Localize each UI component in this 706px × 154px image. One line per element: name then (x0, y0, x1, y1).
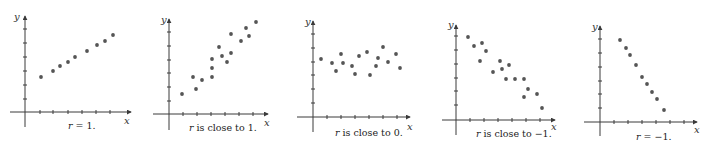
data-point (472, 44, 476, 48)
data-point (247, 34, 251, 38)
data-point (526, 87, 530, 91)
panel-caption: r is close to −1. (476, 128, 552, 139)
data-point (507, 63, 511, 67)
data-point (210, 75, 214, 79)
data-point (51, 69, 55, 73)
data-point (491, 70, 495, 74)
data-point (655, 97, 659, 101)
data-point (618, 38, 622, 42)
data-point (650, 90, 654, 94)
data-point (398, 66, 402, 70)
data-point (368, 73, 372, 77)
data-point (103, 39, 107, 43)
panel-caption: r = −1. (636, 131, 672, 142)
data-point (484, 49, 488, 53)
x-axis-label: x (124, 115, 130, 126)
data-point (357, 54, 361, 58)
data-point (244, 26, 248, 30)
data-point (191, 75, 195, 79)
data-point (381, 45, 385, 49)
data-point (85, 49, 89, 53)
data-point (334, 69, 338, 73)
x-axis-label: x (694, 124, 700, 135)
correlation-scatter-figure: xyr = 1.xyr is close to 1.xyr is close t… (0, 0, 706, 154)
data-point (365, 50, 369, 54)
data-point (498, 59, 502, 63)
data-point (339, 52, 343, 56)
data-point (628, 53, 632, 57)
data-point (180, 92, 184, 96)
data-point (319, 57, 323, 61)
data-point (394, 52, 398, 56)
data-point (466, 35, 470, 39)
panel-caption: r = 1. (68, 120, 96, 131)
data-point (220, 54, 224, 58)
data-point (210, 57, 214, 61)
data-point (95, 43, 99, 47)
data-point (229, 32, 233, 36)
data-point (210, 66, 214, 70)
data-point (624, 46, 628, 50)
data-point (500, 67, 504, 71)
data-point (634, 63, 638, 67)
y-axis-label: y (591, 21, 598, 32)
data-point (478, 59, 482, 63)
panel-caption: r is close to 1. (189, 122, 257, 133)
scatter-panel-4: xyr is close to −1. (442, 19, 557, 139)
x-axis-label: x (264, 117, 270, 128)
data-point (350, 64, 354, 68)
data-point (111, 33, 115, 37)
data-point (341, 61, 345, 65)
data-point (540, 106, 544, 110)
x-axis-label: x (407, 121, 413, 132)
data-point (480, 41, 484, 45)
data-point (640, 75, 644, 79)
scatter-panel-3: xyr is close to 0. (297, 16, 413, 138)
data-point (353, 72, 357, 76)
scatter-panel-1: xyr = 1. (10, 11, 131, 131)
data-point (522, 95, 526, 99)
data-point (39, 75, 43, 79)
y-axis-label: y (160, 14, 167, 25)
x-axis-label: x (551, 121, 557, 132)
data-point (662, 108, 666, 112)
data-point (254, 20, 258, 24)
data-point (513, 77, 517, 81)
data-point (229, 51, 233, 55)
data-point (73, 55, 77, 59)
data-point (376, 56, 380, 60)
data-point (194, 87, 198, 91)
data-point (239, 39, 243, 43)
data-point (330, 61, 334, 65)
data-point (58, 64, 62, 68)
panel-caption: r is close to 0. (335, 127, 403, 138)
data-point (535, 92, 539, 96)
data-point (217, 45, 221, 49)
data-point (225, 60, 229, 64)
data-point (504, 77, 508, 81)
y-axis-label: y (13, 11, 20, 22)
data-point (645, 82, 649, 86)
scatter-panel-2: xyr is close to 1. (153, 14, 270, 133)
data-point (374, 64, 378, 68)
y-axis-label: y (304, 16, 311, 27)
scatter-panel-5: xyr = −1. (584, 21, 700, 142)
y-axis-label: y (447, 19, 454, 30)
data-point (522, 77, 526, 81)
data-point (386, 60, 390, 64)
data-point (200, 78, 204, 82)
data-point (66, 60, 70, 64)
